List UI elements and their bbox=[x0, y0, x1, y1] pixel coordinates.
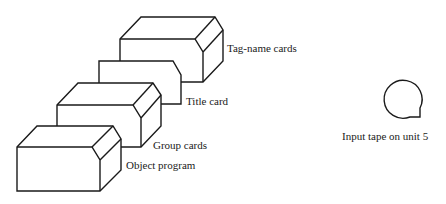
object-program-label: Object program bbox=[126, 160, 195, 171]
group-cards-label: Group cards bbox=[153, 140, 207, 151]
diagram-canvas: Tag-name cards Title card Group cards Ob… bbox=[0, 0, 446, 204]
object-deck-shape bbox=[17, 126, 121, 191]
input-tape-label: Input tape on unit 5 bbox=[342, 131, 428, 142]
title-card-label: Title card bbox=[186, 96, 228, 107]
tag-name-cards-label: Tag-name cards bbox=[227, 43, 297, 54]
tape-reel-icon bbox=[384, 80, 422, 118]
